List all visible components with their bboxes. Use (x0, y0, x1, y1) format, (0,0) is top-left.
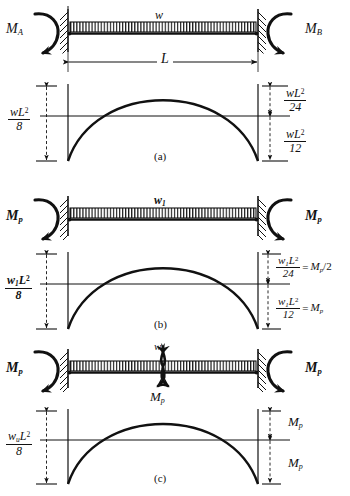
left-moment-value-a: wL2 8 (8, 106, 30, 132)
right-upper-moment-value-c: Mp (288, 415, 303, 430)
right-lower-moment-value-a: wL2 12 (284, 128, 306, 154)
right-end-moment-label-a: MB (305, 22, 322, 37)
distributed-load-a (70, 22, 256, 32)
panel-caption-a: (a) (154, 150, 166, 162)
left-moment-value-b: w1L2 8 (5, 274, 32, 301)
right-end-moment-label-b: Mp (305, 209, 322, 224)
right-fixed-support-a (258, 9, 266, 54)
right-end-moment-arrow-a (268, 14, 291, 53)
right-fixed-support-c (258, 349, 266, 392)
right-end-moment-arrow-c (268, 352, 291, 391)
load-label-a: w (155, 9, 163, 21)
panel-b (35, 196, 291, 329)
left-moment-value-c: wuL2 8 (6, 430, 32, 457)
right-lower-moment-value-c: Mp (288, 456, 303, 471)
right-lower-moment-value-b: w1L2 12 = Mp (276, 296, 323, 321)
panel-c (35, 349, 291, 484)
right-end-moment-arrow-b (268, 200, 291, 239)
right-upper-moment-value-b: w1L2 24 = Mp/2 (276, 255, 332, 280)
left-end-moment-arrow-c (35, 352, 58, 391)
load-label-c: wu (154, 341, 165, 354)
left-end-moment-label-c: Mp (6, 361, 23, 376)
span-label-a: L (157, 52, 173, 66)
load-label-b: w1 (154, 194, 166, 208)
distributed-load-b (70, 208, 256, 218)
left-end-moment-label-b: Mp (6, 209, 23, 224)
left-end-moment-arrow-b (35, 200, 58, 239)
left-fixed-support-a (60, 6, 68, 54)
right-upper-moment-value-a: wL2 24 (284, 87, 306, 113)
panel-a (35, 6, 291, 161)
left-end-moment-arrow-a (35, 14, 58, 53)
right-fixed-support-b (258, 196, 266, 240)
left-end-moment-label-a: MA (6, 22, 23, 37)
figure-root: MA MB w L wL2 8 wL2 24 wL2 12 (a) Mp Mp … (0, 0, 350, 496)
left-fixed-support-b (60, 196, 68, 240)
panel-caption-c: (c) (154, 472, 166, 484)
panel-caption-b: (b) (154, 318, 167, 330)
plastic-hinge-moment-label-c: Mp (150, 390, 165, 405)
left-fixed-support-c (60, 349, 68, 392)
right-end-moment-label-c: Mp (305, 361, 322, 376)
